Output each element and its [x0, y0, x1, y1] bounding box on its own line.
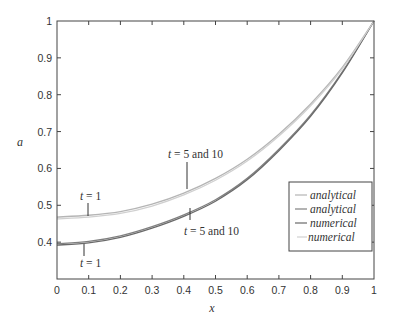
x-tick-label: 0	[54, 284, 60, 296]
y-tick-label: 0.5	[37, 199, 52, 211]
x-tick-label: 0.5	[208, 284, 223, 296]
x-axis-label: x	[208, 301, 215, 315]
svg-text:t = 5 and 10: t = 5 and 10	[168, 148, 223, 160]
y-tick-label: 0.6	[37, 162, 52, 174]
legend-item-numerical-1: numerical	[310, 217, 357, 229]
x-tick-label: 0.7	[272, 284, 287, 296]
y-tick-label: 0.7	[37, 126, 52, 138]
annotation-upper-t5-10: t = 5 and 10	[168, 148, 223, 189]
legend-item-analytical-1: analytical	[310, 189, 356, 202]
svg-text:t = 1: t = 1	[80, 190, 101, 202]
x-tick-label: 0.1	[81, 284, 96, 296]
annotation-lower-t1: t = 1	[80, 244, 101, 269]
svg-text:t = 1: t = 1	[80, 257, 101, 269]
y-tick-label: 0.8	[37, 89, 52, 101]
line-chart: 00.10.20.30.40.50.60.70.80.91 0.40.50.60…	[0, 0, 396, 328]
y-tick-label: 1	[46, 15, 52, 27]
x-tick-label: 0.8	[303, 284, 318, 296]
y-axis-label: a	[17, 135, 23, 149]
x-tick-label: 0.9	[335, 284, 350, 296]
x-tick-label: 0.4	[176, 284, 191, 296]
x-tick-label: 1	[371, 284, 377, 296]
legend-item-analytical-2: analytical	[310, 203, 356, 216]
annotation-upper-t1: t = 1	[80, 190, 101, 216]
x-tick-label: 0.2	[113, 284, 128, 296]
y-tick-label: 0.4	[37, 236, 52, 248]
x-tick-label: 0.6	[240, 284, 255, 296]
x-tick-label: 0.3	[145, 284, 160, 296]
y-tick-label: 0.9	[37, 52, 52, 64]
legend: analytical analytical numerical numerica…	[289, 182, 372, 251]
legend-item-numerical-2: numerical	[308, 231, 355, 243]
svg-text:t = 5 and 10: t = 5 and 10	[184, 225, 239, 237]
